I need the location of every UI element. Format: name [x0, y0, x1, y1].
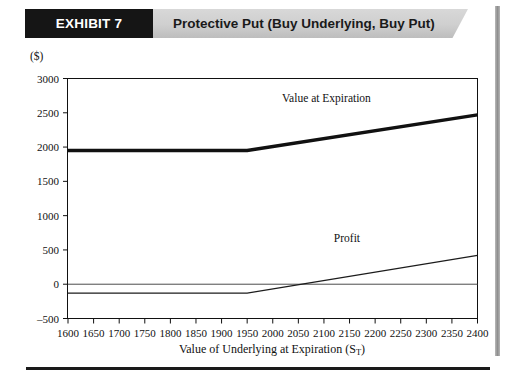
x-tick-label: 1950 [236, 327, 259, 339]
x-tick-label: 1850 [185, 327, 208, 339]
page-bottom-rule [26, 367, 490, 370]
y-tick-label: 2000 [37, 141, 60, 153]
x-tick-label: 2300 [415, 327, 438, 339]
chart-container: ($) –500050010001500200025003000 1600165… [0, 45, 495, 365]
x-tick-label: 2000 [262, 327, 285, 339]
x-tick-label: 2250 [390, 327, 413, 339]
y-tick-label: –500 [36, 313, 60, 325]
x-tick-label: 2200 [364, 327, 387, 339]
value-at-expiration-line [68, 115, 478, 151]
x-tick-label: 1800 [159, 327, 182, 339]
exhibit-banner: EXHIBIT 7 Protective Put (Buy Underlying… [25, 9, 468, 38]
profit-label: Profit [334, 232, 361, 244]
x-tick-label: 1650 [83, 327, 106, 339]
x-tick-label: 2400 [467, 327, 490, 339]
y-tick-label: 3000 [37, 73, 60, 85]
y-tick-label: 1000 [37, 210, 60, 222]
x-tick-label: 1900 [211, 327, 234, 339]
exhibit-title: Protective Put (Buy Underlying, Buy Put) [173, 9, 435, 38]
x-tick-label: 1750 [134, 327, 157, 339]
y-tick-label: 500 [43, 244, 60, 256]
x-tick-label: 2150 [339, 327, 362, 339]
page-right-edge-bar [495, 6, 500, 356]
plot-frame [68, 79, 478, 319]
x-tick-label: 2050 [287, 327, 310, 339]
x-axis-title: Value of Underlying at Expiration (ST) [179, 342, 365, 357]
x-tick-label: 2350 [441, 327, 464, 339]
x-tick-label: 2100 [313, 327, 336, 339]
y-tick-label: 0 [54, 278, 60, 290]
y-tick-label: 2500 [37, 107, 60, 119]
y-axis-tick-labels: –500050010001500200025003000 [36, 73, 60, 325]
y-axis-unit-label: ($) [30, 50, 44, 63]
x-axis-ticks [68, 319, 478, 324]
x-tick-label: 1700 [108, 327, 131, 339]
exhibit-number-label: EXHIBIT 7 [25, 9, 153, 38]
value-at-expiration-label: Value at Expiration [282, 92, 371, 105]
x-axis-tick-labels: 1600165017001750180018501900195020002050… [57, 327, 489, 339]
y-tick-label: 1500 [37, 175, 60, 187]
x-tick-label: 1600 [57, 327, 80, 339]
protective-put-chart: ($) –500050010001500200025003000 1600165… [0, 45, 495, 365]
profit-line [68, 255, 478, 293]
